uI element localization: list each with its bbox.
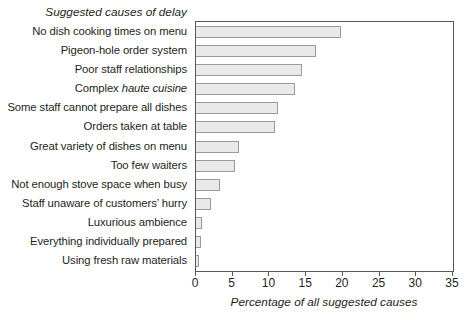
x-tick-label: 0 <box>192 276 199 290</box>
category-label: Great variety of dishes on menu <box>30 140 187 152</box>
category-axis: No dish cooking times on menuPigeon-hole… <box>0 21 191 270</box>
category-label-row: Pigeon-hole order system <box>0 40 191 59</box>
bar <box>196 141 239 153</box>
category-label-row: Too few waiters <box>0 155 191 174</box>
bar <box>196 26 341 38</box>
bar-series <box>196 22 453 271</box>
bar-row <box>196 252 453 271</box>
bar <box>196 217 202 229</box>
x-tick-label: 30 <box>409 276 422 290</box>
bar-row <box>196 99 453 118</box>
category-label: Everything individually prepared <box>30 235 187 247</box>
category-label: Complex haute cuisine <box>75 82 187 94</box>
category-label: Luxurious ambience <box>88 216 187 228</box>
bar <box>196 83 295 95</box>
bar-row <box>196 118 453 137</box>
category-label-row: Using fresh raw materials <box>0 251 191 270</box>
category-label-row: No dish cooking times on menu <box>0 21 191 40</box>
category-label: Not enough stove space when busy <box>11 178 187 190</box>
category-label: Poor staff relationships <box>75 63 187 75</box>
category-label: Too few waiters <box>111 159 187 171</box>
bar <box>196 102 278 114</box>
bar <box>196 198 211 210</box>
category-label: Pigeon-hole order system <box>61 44 187 56</box>
bar-row <box>196 214 453 233</box>
category-label-row: Everything individually prepared <box>0 232 191 251</box>
category-label-row: Complex haute cuisine <box>0 78 191 97</box>
bar-row <box>196 60 453 79</box>
bar-chart: Suggested causes of delay No dish cookin… <box>0 0 473 320</box>
x-tick-label: 25 <box>372 276 385 290</box>
category-label-row: Orders taken at table <box>0 117 191 136</box>
plot-area <box>195 21 454 272</box>
x-tick-label: 20 <box>335 276 348 290</box>
bar <box>196 64 302 76</box>
bar-row <box>196 79 453 98</box>
chart-title: Suggested causes of delay <box>0 5 191 19</box>
x-tick-label: 10 <box>262 276 275 290</box>
category-label-row: Great variety of dishes on menu <box>0 136 191 155</box>
x-tick-label: 15 <box>298 276 311 290</box>
category-label: No dish cooking times on menu <box>32 25 187 37</box>
category-label-row: Staff unaware of customers’ hurry <box>0 193 191 212</box>
bar <box>196 121 275 133</box>
bar-row <box>196 233 453 252</box>
x-tick-label: 35 <box>445 276 458 290</box>
category-label: Using fresh raw materials <box>62 254 187 266</box>
bar-row <box>196 175 453 194</box>
category-label-row: Luxurious ambience <box>0 213 191 232</box>
category-label-row: Not enough stove space when busy <box>0 174 191 193</box>
category-label: Some staff cannot prepare all dishes <box>7 101 187 113</box>
bar <box>196 236 201 248</box>
x-axis-tick-labels: 05101520253035 <box>195 276 453 292</box>
category-label-row: Poor staff relationships <box>0 59 191 78</box>
bar-row <box>196 156 453 175</box>
category-label: Staff unaware of customers’ hurry <box>22 197 187 209</box>
bar <box>196 179 220 191</box>
bar <box>196 255 199 267</box>
bar <box>196 45 316 57</box>
bar-row <box>196 41 453 60</box>
bar <box>196 160 235 172</box>
bar-row <box>196 194 453 213</box>
bar-row <box>196 137 453 156</box>
bar-row <box>196 22 453 41</box>
category-label-row: Some staff cannot prepare all dishes <box>0 98 191 117</box>
x-tick-label: 5 <box>228 276 235 290</box>
x-axis-title: Percentage of all suggested causes <box>195 295 453 309</box>
category-label: Orders taken at table <box>84 120 187 132</box>
